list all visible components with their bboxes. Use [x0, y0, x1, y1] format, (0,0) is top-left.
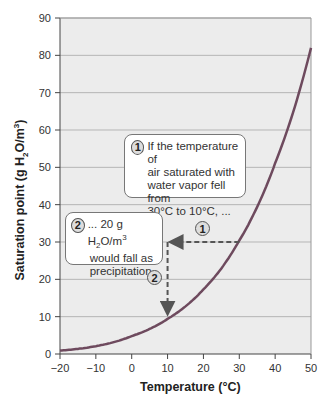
y-tick-label: 40: [39, 199, 51, 211]
y-tick-label: 70: [39, 87, 51, 99]
y-axis-label: Saturation point (g H2O/m3): [12, 120, 30, 281]
y-tick-label: 50: [39, 161, 51, 173]
step-2-marker: 2: [147, 270, 162, 285]
box2-line: ... 20 g H2O/m3: [88, 218, 157, 252]
box1-line: If the temperature of: [147, 140, 239, 166]
box1-line: water vapor fell from: [147, 179, 239, 205]
x-tick-label: −10: [87, 362, 106, 374]
x-axis-label: Temperature (°C): [140, 380, 241, 394]
x-tick-label: 40: [269, 362, 281, 374]
x-tick-label: 20: [197, 362, 209, 374]
y-tick-label: 60: [39, 124, 51, 136]
y-tick-label: 30: [39, 236, 51, 248]
y-tick-label: 20: [39, 273, 51, 285]
y-tick-label: 90: [39, 12, 51, 24]
x-tick-label: 50: [305, 362, 317, 374]
step-2-icon: 2: [71, 218, 85, 233]
chart-container: 0102030405060708090−20−1001020304050 1 I…: [0, 0, 335, 405]
step-1-marker: 1: [195, 221, 210, 236]
x-tick-label: 10: [161, 362, 173, 374]
y-tick-label: 0: [45, 348, 51, 360]
y-tick-label: 80: [39, 49, 51, 61]
x-tick-label: 0: [129, 362, 135, 374]
y-tick-label: 10: [39, 311, 51, 323]
annotation-box-2: 2 ... 20 g H2O/m3 would fall as precipit…: [65, 212, 163, 265]
step-1-icon: 1: [131, 140, 144, 155]
x-tick-label: −20: [51, 362, 70, 374]
x-tick-label: 30: [233, 362, 245, 374]
box1-line: air saturated with: [147, 166, 239, 179]
annotation-box-1: 1 If the temperature of air saturated wi…: [124, 134, 246, 198]
box2-line: would fall as: [90, 252, 157, 265]
